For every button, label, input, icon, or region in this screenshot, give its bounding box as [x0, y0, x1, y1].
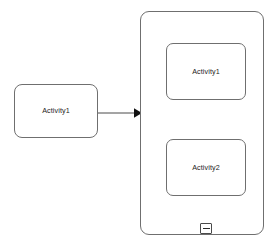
activity-node-inner-1-label: Activity1: [192, 68, 220, 75]
diagram-canvas: Activity1 Activity1 Activity2: [0, 0, 278, 244]
connector-arrow[interactable]: [98, 105, 142, 121]
activity-node-inner-2[interactable]: Activity2: [166, 139, 246, 196]
activity-node-left-label: Activity1: [42, 107, 70, 114]
activity-node-left[interactable]: Activity1: [14, 84, 98, 138]
collapse-toggle-button[interactable]: [200, 223, 212, 234]
activity-node-inner-1[interactable]: Activity1: [166, 43, 246, 100]
minus-icon: [203, 228, 210, 229]
activity-node-inner-2-label: Activity2: [192, 164, 220, 171]
